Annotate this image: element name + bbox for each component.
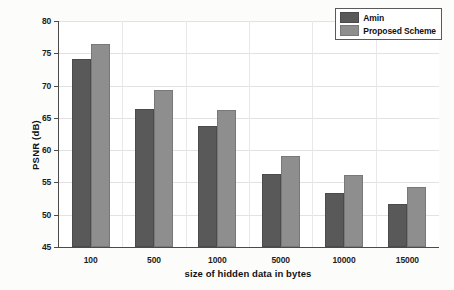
x-tick-label: 5000 bbox=[271, 255, 290, 265]
x-tick-label: 100 bbox=[84, 255, 98, 265]
y-tick-mark bbox=[54, 247, 59, 248]
y-axis-label: PSNR (dB) bbox=[30, 120, 41, 170]
bar bbox=[154, 90, 173, 247]
y-tick-mark bbox=[54, 53, 59, 54]
bar bbox=[135, 109, 154, 247]
bar-group bbox=[72, 21, 110, 247]
y-tick-label: 65 bbox=[42, 113, 51, 123]
legend-item: Amin bbox=[340, 12, 436, 23]
legend-label: Proposed Scheme bbox=[363, 26, 436, 36]
x-axis-label: size of hidden data in bytes bbox=[58, 268, 438, 279]
bar bbox=[198, 126, 217, 247]
vertical-gridline bbox=[122, 21, 123, 247]
y-tick-label: 70 bbox=[42, 81, 51, 91]
y-tick-label: 75 bbox=[42, 48, 51, 58]
legend-swatch bbox=[340, 25, 359, 36]
bar-group bbox=[388, 21, 426, 247]
vertical-gridline bbox=[249, 21, 250, 247]
y-tick-mark bbox=[54, 118, 59, 119]
bar bbox=[262, 174, 281, 247]
bar-group bbox=[135, 21, 173, 247]
legend-swatch bbox=[340, 12, 359, 23]
y-tick-mark bbox=[54, 215, 59, 216]
bar bbox=[344, 175, 363, 247]
bar bbox=[217, 110, 236, 247]
y-tick-label: 80 bbox=[42, 16, 51, 26]
y-tick-mark bbox=[54, 182, 59, 183]
bar bbox=[281, 156, 300, 247]
vertical-gridline bbox=[376, 21, 377, 247]
y-tick-mark bbox=[54, 86, 59, 87]
x-tick-label: 15000 bbox=[396, 255, 419, 265]
x-tick-label: 1000 bbox=[208, 255, 227, 265]
y-tick-label: 60 bbox=[42, 145, 51, 155]
vertical-gridline bbox=[186, 21, 187, 247]
x-tick-label: 10000 bbox=[332, 255, 355, 265]
bar bbox=[72, 59, 91, 247]
bar-group bbox=[198, 21, 236, 247]
vertical-gridline bbox=[312, 21, 313, 247]
y-tick-mark bbox=[54, 21, 59, 22]
chart-legend: AminProposed Scheme bbox=[335, 8, 442, 40]
bar-group bbox=[325, 21, 363, 247]
y-tick-mark bbox=[54, 150, 59, 151]
legend-item: Proposed Scheme bbox=[340, 25, 436, 36]
bar bbox=[325, 193, 344, 247]
plot-area: 4550556065707580 10050010005000100001500… bbox=[58, 21, 439, 248]
y-tick-label: 50 bbox=[42, 210, 51, 220]
y-tick-label: 55 bbox=[42, 177, 51, 187]
bar bbox=[407, 187, 426, 247]
chart-figure: PSNR (dB) 4550556065707580 1005001000500… bbox=[0, 0, 454, 290]
bar bbox=[91, 44, 110, 247]
legend-label: Amin bbox=[363, 13, 384, 23]
bar bbox=[388, 204, 407, 247]
x-tick-label: 500 bbox=[147, 255, 161, 265]
y-tick-label: 45 bbox=[42, 242, 51, 252]
bar-group bbox=[262, 21, 300, 247]
